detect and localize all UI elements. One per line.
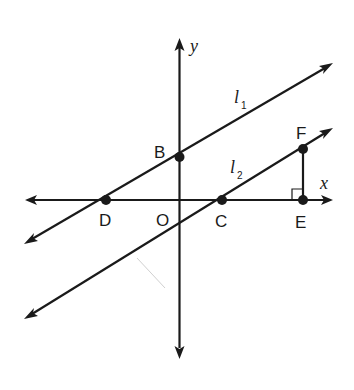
point-f <box>298 144 308 154</box>
l2-left-arrow-icon <box>24 308 38 319</box>
label-c: C <box>215 212 227 231</box>
stray-mark <box>137 258 165 288</box>
point-c <box>217 195 227 205</box>
x-axis-label: x <box>319 173 328 193</box>
label-l2-subscript: 2 <box>237 170 243 181</box>
point-d <box>101 195 111 205</box>
label-d: D <box>99 211 111 230</box>
label-l1: l <box>234 87 239 107</box>
l1-right-arrow-icon <box>319 63 333 74</box>
l2-right-arrow-icon <box>319 128 333 139</box>
coordinate-diagram: y x B D O C E F l 1 l 2 <box>0 0 354 390</box>
label-l1-subscript: 1 <box>241 100 247 111</box>
label-e: E <box>295 213 306 232</box>
label-f: F <box>296 124 306 143</box>
label-b: B <box>154 143 165 162</box>
point-e <box>298 195 308 205</box>
l1-left-arrow-icon <box>24 233 38 244</box>
label-o: O <box>156 211 169 230</box>
label-l2: l <box>230 157 235 177</box>
point-b <box>175 152 185 162</box>
y-axis-label: y <box>188 36 198 56</box>
